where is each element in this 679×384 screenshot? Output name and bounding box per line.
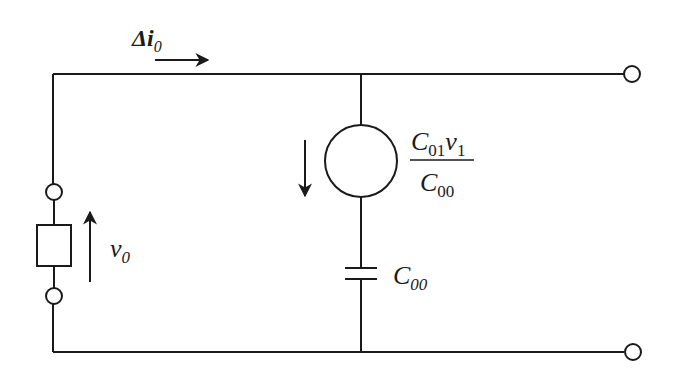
source-numerator: C01v1 bbox=[411, 127, 465, 160]
voltage-label: v0 bbox=[110, 234, 131, 267]
capacitor-label: C00 bbox=[393, 261, 428, 294]
input-lower-terminal bbox=[46, 288, 62, 304]
input-upper-terminal bbox=[46, 184, 62, 200]
current-label: Δi0 bbox=[131, 25, 162, 55]
circuit-diagram: Δi0 v0 C01v1 C00 C00 bbox=[0, 0, 679, 384]
current-source bbox=[325, 125, 397, 197]
output-terminal-bottom bbox=[625, 344, 641, 360]
input-port-box bbox=[37, 225, 71, 266]
output-terminal-top bbox=[624, 66, 640, 82]
source-denominator: C00 bbox=[420, 168, 454, 201]
